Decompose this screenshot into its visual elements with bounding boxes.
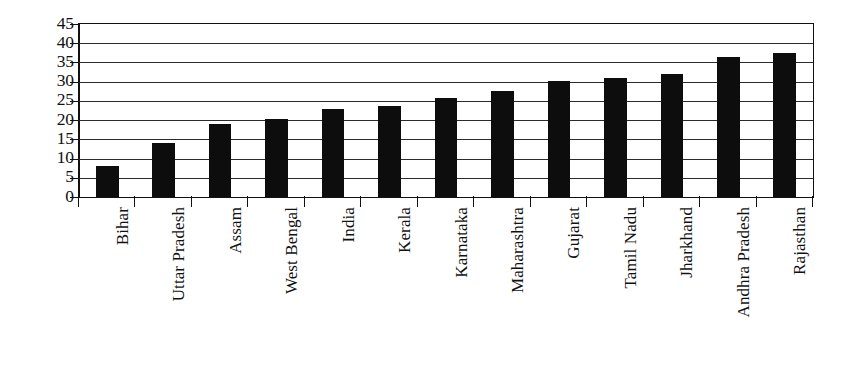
x-axis-tick-label: Uttar Pradesh (169, 207, 188, 301)
x-axis-tick-label: Bihar (113, 207, 132, 245)
bar[interactable] (265, 119, 288, 197)
y-axis-tick-label: 20 (32, 111, 74, 129)
y-axis-tick-label: 5 (32, 168, 74, 186)
x-axis-tick-label: Jharkhand (677, 207, 696, 278)
x-axis-tick-mark (530, 196, 531, 207)
bar[interactable] (548, 81, 571, 197)
y-axis-tick-label: 30 (32, 72, 74, 90)
plot-inner (79, 24, 813, 197)
x-axis-tick-label: Assam (226, 207, 245, 254)
y-axis-tick-mark (70, 62, 79, 63)
bar[interactable] (322, 109, 345, 197)
x-axis-tick-mark (191, 196, 192, 207)
bar-chart: 454035302520151050 BiharUttar PradeshAss… (0, 0, 846, 368)
y-axis-tick-labels: 454035302520151050 (32, 14, 74, 196)
y-axis-tick-mark (70, 178, 79, 179)
y-axis-tick-mark (70, 101, 79, 102)
x-axis-tick-mark (134, 196, 135, 207)
x-axis-tick-mark (78, 196, 79, 207)
x-axis-tick-label: Andhra Pradesh (734, 207, 753, 317)
x-axis-tick-mark (586, 196, 587, 207)
y-axis-tick-label: 35 (32, 53, 74, 71)
bar[interactable] (378, 106, 401, 197)
y-axis-tick-mark (70, 43, 79, 44)
x-axis-tick-label: Kerala (395, 207, 414, 253)
x-axis-tick-label: Maharashtra (508, 207, 527, 293)
x-axis-tick-label: West Bengal (282, 207, 301, 294)
x-axis-tick-mark (304, 196, 305, 207)
plot-area (78, 23, 814, 198)
bar[interactable] (661, 74, 684, 197)
y-axis-tick-mark (70, 159, 79, 160)
bar-series (79, 24, 813, 197)
x-axis-tick-mark (417, 196, 418, 207)
y-axis-tick-mark (70, 120, 79, 121)
x-axis-tick-label: Karnataka (452, 207, 471, 278)
bar[interactable] (717, 57, 740, 197)
bar[interactable] (604, 78, 627, 197)
x-axis-tick-mark (247, 196, 248, 207)
y-axis-tick-label: 0 (32, 188, 74, 206)
x-axis-tick-label: Tamil Nadu (621, 207, 640, 288)
x-axis-tick-mark (360, 196, 361, 207)
bar[interactable] (209, 124, 232, 197)
y-axis-tick-label: 45 (32, 15, 74, 33)
x-axis-tick-label: Gujarat (564, 207, 583, 259)
y-axis-tick-label: 10 (32, 149, 74, 167)
x-axis-tick-label: India (339, 207, 358, 242)
x-axis-tick-mark (643, 196, 644, 207)
x-axis-tick-mark (699, 196, 700, 207)
x-axis-tick-mark (473, 196, 474, 207)
y-axis-tick-label: 25 (32, 91, 74, 109)
x-axis-tick-labels: BiharUttar PradeshAssamWest BengalIndiaK… (78, 207, 812, 365)
y-axis-tick-label: 15 (32, 130, 74, 148)
y-axis-tick-mark (70, 24, 79, 25)
bar[interactable] (491, 91, 514, 197)
bar[interactable] (435, 98, 458, 197)
bar[interactable] (773, 53, 796, 197)
bar[interactable] (152, 143, 175, 197)
y-axis-tick-mark (70, 82, 79, 83)
y-axis-tick-label: 40 (32, 34, 74, 52)
x-axis-tick-mark (812, 196, 813, 207)
x-axis-tick-label: Rajasthan (790, 207, 809, 275)
x-axis-tick-mark (756, 196, 757, 207)
y-axis-tick-mark (70, 139, 79, 140)
bar[interactable] (96, 166, 119, 197)
